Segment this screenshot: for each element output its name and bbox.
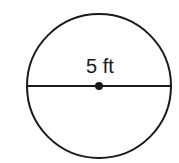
center-point (95, 82, 103, 90)
circle-diagram: 5 ft (0, 0, 179, 163)
diameter-label: 5 ft (86, 55, 114, 77)
